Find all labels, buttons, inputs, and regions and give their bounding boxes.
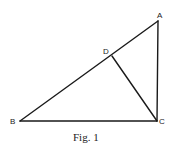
label-a: A bbox=[157, 11, 163, 20]
label-c: C bbox=[159, 117, 165, 126]
label-d: D bbox=[103, 47, 109, 56]
segment-ca bbox=[157, 21, 158, 121]
segment-ab bbox=[20, 21, 158, 121]
figure-caption: Fig. 1 bbox=[73, 131, 99, 143]
geometry-figure: A D B C Fig. 1 bbox=[0, 0, 174, 149]
label-b: B bbox=[10, 117, 15, 126]
segment-dc bbox=[112, 56, 157, 121]
